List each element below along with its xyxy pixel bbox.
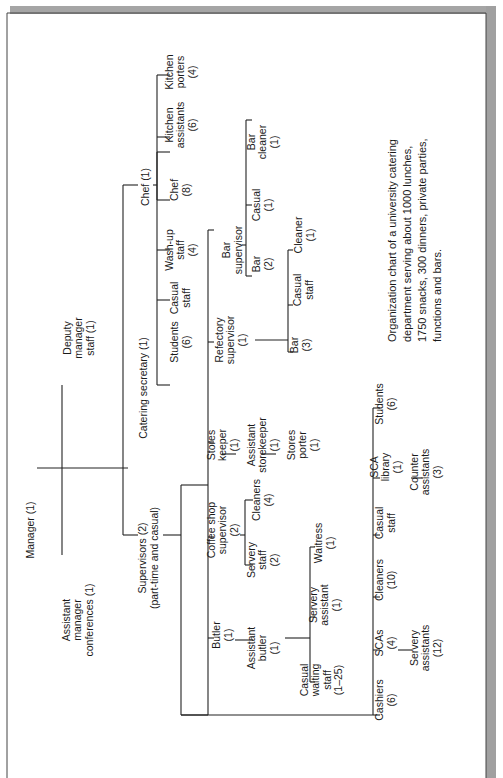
node-label-line: Casual bbox=[298, 664, 310, 697]
node-label-line: Waitress bbox=[312, 523, 324, 563]
node-cashiers: Cashiers(6) bbox=[373, 679, 397, 720]
node-coffee-shop-supervisor: Coffee shopsupervisor(2) bbox=[205, 502, 240, 559]
caption-line: 1750 snacks, 300 dinners, private partie… bbox=[416, 138, 428, 342]
node-label-line: Kitchen bbox=[163, 54, 175, 89]
node-label-line: library bbox=[379, 452, 391, 481]
node-label-line: staff bbox=[256, 550, 268, 570]
node-labels: Manager (1)Assistantmanagerconferences (… bbox=[24, 54, 443, 720]
node-label-line: Chef bbox=[168, 179, 180, 201]
node-label-line: (1) bbox=[236, 334, 248, 347]
node-label-line: Assistant bbox=[245, 627, 257, 670]
node-students-bottom: Students(6) bbox=[373, 383, 397, 424]
node-label-line: keeper bbox=[216, 428, 228, 461]
node-label-line: (6) bbox=[186, 119, 198, 132]
node-bar-2: Bar(2) bbox=[250, 255, 274, 272]
node-bar-3: Bar(3) bbox=[288, 336, 312, 353]
node-label-line: Cleaner bbox=[292, 216, 304, 253]
node-label-line: Refectory bbox=[213, 317, 225, 363]
node-label-line: Cashiers bbox=[373, 679, 385, 720]
node-catering-secretary: Catering secretary (1) bbox=[137, 337, 149, 439]
node-label-line: (8) bbox=[180, 184, 192, 197]
node-servery-staff: Serverystaff(2) bbox=[245, 541, 280, 578]
node-label-line: SCA bbox=[368, 456, 380, 478]
node-label-line: butler bbox=[256, 634, 268, 661]
node-label-line: (4) bbox=[186, 66, 198, 79]
node-label-line: supervisor bbox=[224, 315, 236, 364]
node-students-cs: Students(6) bbox=[168, 321, 192, 362]
node-manager: Manager (1) bbox=[24, 501, 36, 558]
node-label-line: Manager (1) bbox=[24, 501, 36, 558]
node-label-line: (1) bbox=[268, 439, 280, 452]
node-label-line: Counter bbox=[408, 453, 420, 491]
node-label-line: (1–25) bbox=[332, 665, 344, 695]
node-label-line: porter bbox=[296, 431, 308, 459]
node-label-line: (1) bbox=[308, 439, 320, 452]
node-label-line: (1) bbox=[268, 642, 280, 655]
node-label-line: Students bbox=[373, 383, 385, 424]
node-label-line: Kitchen bbox=[163, 107, 175, 142]
node-stores-porter: Storesporter(1) bbox=[285, 430, 320, 460]
node-label-line: (2) bbox=[228, 524, 240, 537]
node-label-line: manager bbox=[71, 599, 83, 641]
node-bar-cleaner: Barcleaner(1) bbox=[245, 124, 280, 159]
node-label-line: Deputy bbox=[61, 321, 73, 355]
node-label-line: (4) bbox=[262, 494, 274, 507]
node-label-line: (1) bbox=[222, 629, 234, 642]
node-label-line: assistants bbox=[419, 449, 431, 496]
node-label-line: Stores bbox=[205, 430, 217, 460]
node-label-line: (1) bbox=[330, 599, 342, 612]
node-casual-staff-bottom: Casualstaff bbox=[373, 507, 397, 540]
node-label-line: (6) bbox=[180, 336, 192, 349]
node-label-line: (10) bbox=[385, 571, 397, 590]
node-refectory-supervisor: Refectorysupervisor(1) bbox=[213, 315, 248, 364]
node-label-line: waiting bbox=[309, 663, 321, 697]
node-servery-assistant: Serveryassistant(1) bbox=[307, 584, 342, 626]
node-supervisors: Supervisors (2)(part-time and casual) bbox=[136, 507, 160, 609]
node-label-line: (1) bbox=[268, 136, 280, 149]
node-label-line: Servery bbox=[408, 629, 420, 666]
node-butler: Butler(1) bbox=[210, 621, 234, 649]
node-label-line: staff bbox=[174, 240, 186, 260]
node-label-line: (1) bbox=[304, 229, 316, 242]
node-cleaners-10: Cleaners(10) bbox=[373, 559, 397, 601]
node-casual-staff-ref: Casualstaff bbox=[291, 274, 315, 307]
node-label-line: (1) bbox=[324, 537, 336, 550]
node-label-line: Catering secretary (1) bbox=[137, 337, 149, 439]
node-casual-waiting-staff: Casualwaitingstaff(1–25) bbox=[298, 663, 345, 697]
node-kitchen-porters: Kitchenporters(4) bbox=[163, 54, 198, 89]
node-label-line: staff bbox=[180, 288, 192, 308]
connector-lines bbox=[37, 75, 423, 715]
node-label-line: (part-time and casual) bbox=[148, 507, 160, 609]
node-label-line: (1) bbox=[391, 461, 403, 474]
node-label-line: Students bbox=[168, 321, 180, 362]
node-label-line: Supervisors (2) bbox=[136, 522, 148, 593]
node-label-line: SCAs bbox=[373, 630, 385, 657]
node-label-line: (6) bbox=[385, 398, 397, 411]
node-wash-up-staff: Wash-upstaff(4) bbox=[163, 229, 198, 271]
node-assistant-storekeeper: Assistantstorekeeper(1) bbox=[245, 417, 280, 473]
node-label-line: supervisor bbox=[216, 505, 228, 554]
node-label-line: cleaner bbox=[256, 124, 268, 159]
node-label-line: staff (1) bbox=[84, 320, 96, 355]
node-label-line: (2) bbox=[262, 258, 274, 271]
node-label-line: Butler bbox=[210, 621, 222, 649]
node-label-line: (4) bbox=[385, 637, 397, 650]
node-label-line: Bar bbox=[288, 336, 300, 353]
node-label-line: porters bbox=[174, 56, 186, 89]
node-chef: Chef(8) bbox=[168, 179, 192, 201]
node-label-line: Cleaners bbox=[250, 479, 262, 521]
node-cleaner-ref: Cleaner(1) bbox=[292, 216, 316, 253]
node-casual-staff-cs: Casualstaff bbox=[168, 282, 192, 315]
node-label-line: Casual bbox=[373, 507, 385, 540]
node-assistant-butler: Assistantbutler(1) bbox=[245, 627, 280, 670]
node-label-line: (3) bbox=[431, 466, 443, 479]
node-label-line: assistants bbox=[174, 102, 186, 149]
node-label-line: staff bbox=[321, 670, 333, 690]
node-label-line: Coffee shop bbox=[205, 502, 217, 559]
node-label-line: staff bbox=[303, 280, 315, 300]
caption-line: functions and bars. bbox=[431, 249, 443, 342]
node-label-line: Cleaners bbox=[373, 559, 385, 601]
node-label-line: staff bbox=[385, 513, 397, 533]
node-label-line: Servery bbox=[245, 541, 257, 578]
caption-line: department serving about 1000 lunches, bbox=[401, 146, 413, 342]
